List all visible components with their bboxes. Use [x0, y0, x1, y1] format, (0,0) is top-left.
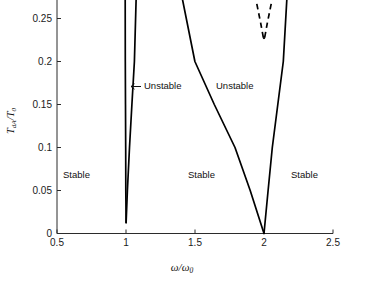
- x-axis-ticks: [57, 230, 333, 234]
- x-axis-title-sub: 0: [189, 266, 193, 275]
- stability-chart-figure: 0.5 1 1.5 2 2.5 0.25 0.2 0.15 0.1 0.05 0…: [0, 0, 365, 283]
- first-tongue-curves: [125, 0, 136, 223]
- x-tick-label-2: 1.5: [188, 238, 202, 248]
- y-axis-title-wrapper: TdA/T0: [2, 86, 18, 156]
- second-tongue-left-boundary: [183, 0, 264, 234]
- unstable-region-label-right: Unstable: [216, 81, 254, 91]
- third-tongue-apex: [263, 37, 264, 38]
- y-axis-title: TdA/T0: [5, 108, 16, 134]
- y-axis-title-sub2: 0: [9, 108, 17, 112]
- stable-region-label-left: Stable: [63, 170, 90, 180]
- x-tick-label-0: 0.5: [50, 238, 64, 248]
- third-tongue-left-boundary-dashed: [256, 0, 263, 37]
- y-axis-ticks: [57, 19, 61, 234]
- stable-region-label-middle: Stable: [188, 170, 215, 180]
- third-tongue-dashed-curves: [256, 0, 272, 38]
- x-tick-label-3: 2: [261, 238, 267, 248]
- y-axis-title-main: T: [5, 128, 16, 134]
- y-tick-label-0.05: 0.05: [24, 186, 52, 196]
- axis-lines: [57, 0, 333, 234]
- x-axis-title: ω/ω0: [171, 262, 193, 273]
- second-tongue-right-boundary: [264, 0, 287, 234]
- y-tick-label-0.25: 0.25: [24, 14, 52, 24]
- x-axis-title-main: ω/ω: [171, 261, 190, 273]
- stable-region-label-right: Stable: [291, 170, 318, 180]
- first-tongue-left-boundary: [125, 0, 126, 223]
- y-axis-title-mid: /T: [5, 112, 16, 121]
- y-tick-label-0: 0: [24, 229, 52, 239]
- y-tick-label-0.2: 0.2: [24, 57, 52, 67]
- y-tick-label-0.15: 0.15: [24, 100, 52, 110]
- second-tongue-curves: [183, 0, 287, 234]
- x-tick-label-1: 1: [123, 238, 129, 248]
- unstable-region-label-left: Unstable: [144, 81, 182, 91]
- first-tongue-right-boundary: [126, 0, 136, 223]
- x-tick-label-4: 2.5: [326, 238, 340, 248]
- third-tongue-right-boundary-dashed: [265, 0, 272, 37]
- y-tick-label-0.1: 0.1: [24, 143, 52, 153]
- y-axis-title-sub1: dA: [9, 120, 17, 128]
